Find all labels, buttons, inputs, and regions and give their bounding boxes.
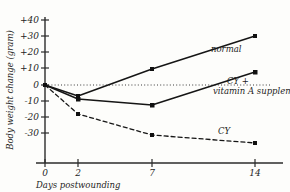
- series-cy-vitamin-a-label-line1: CY +: [227, 76, 249, 86]
- chart-figure: +40 +30 +20 +10 0 -10 -20 -30 Body weigh…: [0, 0, 290, 192]
- y-tick-label-0: 0: [33, 80, 39, 90]
- x-axis-title: Days postwounding: [35, 180, 121, 190]
- series-cy-marker-7: [150, 133, 154, 137]
- x-tick-label-14: 14: [249, 168, 261, 178]
- series-normal-marker-7: [150, 67, 154, 71]
- series-cy-vitamin-a-marker-7: [150, 103, 155, 108]
- x-tick-label-7: 7: [149, 168, 155, 178]
- y-tick-label-neg30: -30: [25, 128, 40, 138]
- series-normal-label: normal: [211, 44, 242, 54]
- y-tick-label-neg10: -10: [25, 96, 40, 106]
- series-cy-marker-2: [76, 112, 80, 116]
- series-cy-marker-0: [43, 83, 47, 87]
- y-axis-title: Body weight change (gram): [5, 30, 15, 151]
- y-tick-label-neg20: -20: [25, 112, 40, 122]
- x-axis-group: 0 2 7 14 Days postwounding: [35, 159, 283, 190]
- y-tick-label-20: +20: [20, 47, 39, 57]
- line-chart: +40 +30 +20 +10 0 -10 -20 -30 Body weigh…: [0, 0, 290, 192]
- y-tick-label-40: +40: [20, 15, 39, 25]
- x-tick-label-2: 2: [74, 168, 81, 178]
- series-cy-label: CY: [218, 126, 232, 136]
- series-cy-vitamin-a-marker-14: [253, 70, 258, 75]
- y-tick-label-10: +10: [20, 63, 39, 73]
- y-tick-label-30: +30: [20, 31, 39, 41]
- series-cy-vitamin-a-label-line2: vitamin A supplement: [213, 86, 290, 96]
- series-normal-marker-14: [253, 34, 257, 38]
- series-cy-marker-14: [253, 141, 257, 145]
- x-tick-label-0: 0: [42, 168, 48, 178]
- y-axis-group: +40 +30 +20 +10 0 -10 -20 -30 Body weigh…: [5, 15, 49, 163]
- series-cy-vitamin-a: CY + vitamin A supplement: [43, 70, 290, 108]
- series-cy-vitamin-a-marker-2: [76, 97, 81, 102]
